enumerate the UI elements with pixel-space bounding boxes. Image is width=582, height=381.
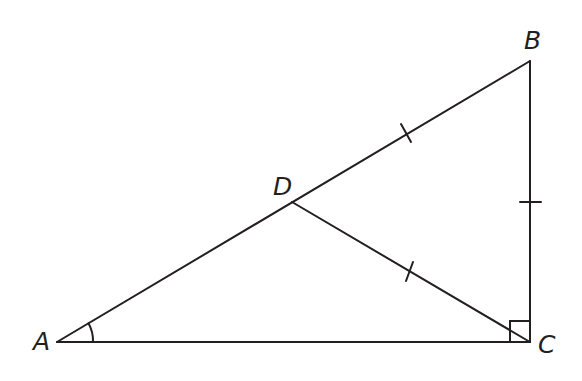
vertex-label-d: D bbox=[273, 174, 292, 199]
vertex-label-c: C bbox=[538, 332, 555, 357]
vertex-label-a: A bbox=[33, 329, 50, 354]
segment-dc bbox=[292, 202, 530, 342]
angle-arc-a bbox=[89, 323, 94, 342]
vertex-label-b: B bbox=[524, 28, 541, 53]
